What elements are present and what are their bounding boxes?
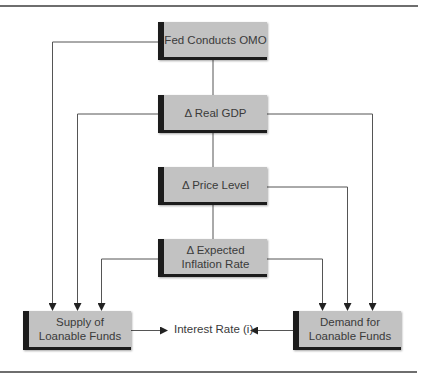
- node-label: Fed Conducts OMO: [164, 33, 266, 47]
- node-label: Demand for Loanable Funds: [309, 315, 391, 343]
- node-demand-loanable-funds: Demand for Loanable Funds: [293, 311, 401, 350]
- node-real-gdp: Δ Real GDP: [158, 95, 267, 133]
- node-label: Δ Real GDP: [184, 106, 246, 120]
- node-supply-loanable-funds: Supply of Loanable Funds: [23, 311, 131, 350]
- node-price-level: Δ Price Level: [158, 167, 267, 205]
- node-label: Supply of Loanable Funds: [39, 315, 121, 343]
- node-fed-conducts-omo: Fed Conducts OMO: [158, 22, 267, 60]
- interest-rate-label: Interest Rate (i): [174, 323, 253, 335]
- node-label: Δ Price Level: [182, 178, 249, 192]
- node-label: Δ Expected Inflation Rate: [182, 243, 250, 271]
- node-expected-inflation: Δ Expected Inflation Rate: [158, 239, 267, 277]
